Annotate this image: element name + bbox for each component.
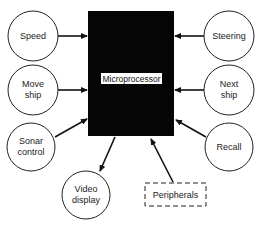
node-sonar-control-label-1: Sonar: [19, 136, 43, 146]
node-video-display-label-2: display: [72, 195, 101, 205]
microprocessor-block: Microprocessor: [88, 11, 174, 136]
node-next-ship-label-1: Next: [220, 79, 239, 89]
node-peripherals-label: Peripherals: [153, 190, 199, 200]
node-move-ship: Move ship: [8, 65, 58, 115]
microprocessor-label: Microprocessor: [102, 74, 160, 84]
node-video-display-label-1: Video: [75, 184, 98, 194]
arrow-recall: [176, 120, 206, 137]
node-steering-label: Steering: [212, 31, 246, 41]
node-next-ship-label-2: ship: [221, 90, 238, 100]
node-speed: Speed: [8, 11, 58, 61]
arrow-video-display: [100, 137, 115, 171]
node-steering: Steering: [204, 11, 254, 61]
block-diagram: Microprocessor Speed Move ship Sonar con…: [0, 0, 262, 227]
node-recall-label: Recall: [216, 142, 241, 152]
arrow-sonar-control: [55, 119, 87, 137]
node-move-ship-label-1: Move: [22, 79, 44, 89]
node-video-display: Video display: [62, 171, 110, 219]
node-sonar-control: Sonar control: [7, 123, 55, 171]
node-move-ship-label-2: ship: [25, 90, 42, 100]
node-speed-label: Speed: [20, 31, 46, 41]
node-recall: Recall: [205, 123, 253, 171]
node-sonar-control-label-2: control: [17, 147, 44, 157]
arrow-peripherals: [151, 139, 173, 182]
node-next-ship: Next ship: [204, 65, 254, 115]
node-peripherals: Peripherals: [145, 183, 206, 206]
